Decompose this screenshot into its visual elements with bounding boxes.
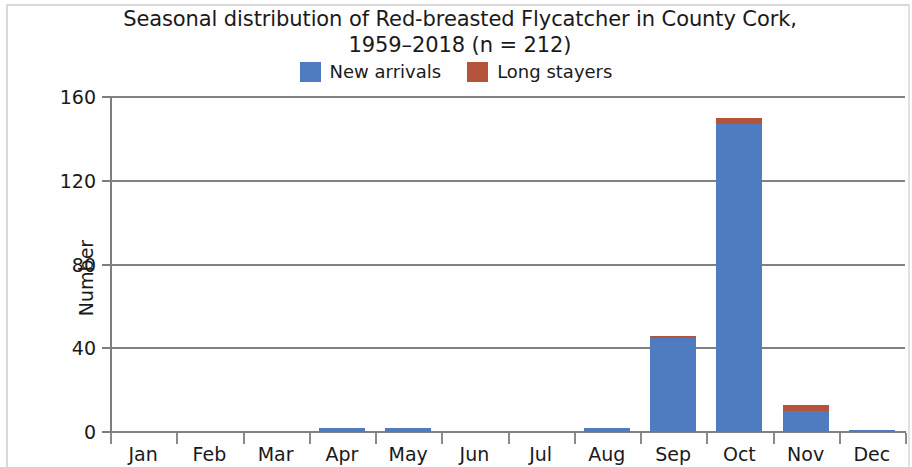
y-tick-mark-80 <box>102 264 111 266</box>
chart-figure: Seasonal distribution of Red-breasted Fl… <box>0 0 912 467</box>
bar-apr <box>319 428 365 432</box>
gridline-80 <box>110 264 905 266</box>
bar-sep <box>650 336 696 432</box>
gridline-40 <box>110 347 905 349</box>
plot-area: Number <box>110 97 905 432</box>
bar-segment-long-stayers-oct <box>716 118 762 124</box>
y-tick-label-80: 80 <box>26 254 96 276</box>
bar-segment-new-arrivals-dec <box>849 430 895 432</box>
chart-legend: New arrivals Long stayers <box>0 62 912 82</box>
y-tick-mark-120 <box>102 180 111 182</box>
bar-segment-new-arrivals-sep <box>650 338 696 432</box>
legend-label-new-arrivals: New arrivals <box>330 62 442 82</box>
bar-dec <box>849 430 895 432</box>
bar-segment-new-arrivals-may <box>385 428 431 432</box>
y-tick-mark-40 <box>102 347 111 349</box>
bar-segment-new-arrivals-apr <box>319 428 365 432</box>
legend-entry-new-arrivals: New arrivals <box>300 62 442 82</box>
bar-aug <box>584 428 630 432</box>
bar-segment-long-stayers-nov <box>783 405 829 411</box>
gridline-160 <box>110 96 905 98</box>
y-tick-label-40: 40 <box>26 337 96 359</box>
bar-nov <box>783 405 829 432</box>
y-tick-label-160: 160 <box>26 86 96 108</box>
legend-swatch-new-arrivals <box>300 62 321 82</box>
y-tick-mark-160 <box>102 96 111 98</box>
legend-swatch-long-stayers <box>467 62 488 82</box>
y-axis-label: Number <box>75 240 97 316</box>
bar-segment-new-arrivals-nov <box>783 411 829 432</box>
bar-segment-new-arrivals-oct <box>716 124 762 432</box>
bar-oct <box>716 118 762 432</box>
x-tick-mark-end <box>905 433 907 444</box>
legend-label-long-stayers: Long stayers <box>497 62 612 82</box>
chart-title: Seasonal distribution of Red-breasted Fl… <box>60 6 860 58</box>
bar-segment-long-stayers-sep <box>650 336 696 338</box>
bar-may <box>385 428 431 432</box>
legend-entry-long-stayers: Long stayers <box>467 62 612 82</box>
y-tick-label-0: 0 <box>26 421 96 443</box>
gridline-120 <box>110 180 905 182</box>
bar-segment-new-arrivals-aug <box>584 428 630 432</box>
x-tick-label-dec: Dec <box>832 443 912 465</box>
y-tick-label-120: 120 <box>26 170 96 192</box>
